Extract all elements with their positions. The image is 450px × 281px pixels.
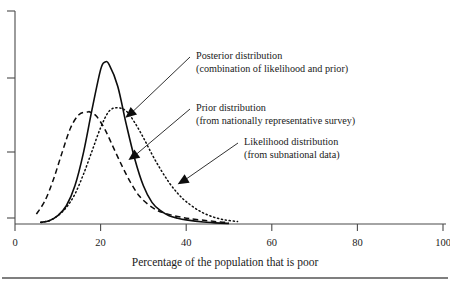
annotation-subtitle: (combination of likelihood and prior) — [196, 63, 348, 75]
annotation-subtitle: (from subnational data) — [244, 149, 340, 161]
annotation-title: Prior distribution — [196, 102, 266, 113]
x-axis-tick-label: 0 — [12, 237, 17, 248]
annotation-leader-line — [185, 143, 238, 180]
annotation-title: Likelihood distribution — [244, 136, 338, 147]
curve-prior — [36, 112, 229, 223]
x-axis-ticks — [15, 224, 443, 231]
x-axis-tick-label: 100 — [435, 237, 450, 248]
annotation-leader-line — [132, 57, 190, 112]
annotation-leader-line — [136, 109, 190, 155]
distribution-chart: 020406080100 Posterior distribution(comb… — [0, 0, 450, 281]
x-axis-tick-label: 80 — [352, 237, 363, 248]
annotation-group: Posterior distribution(combination of li… — [122, 50, 355, 188]
annotation-arrowhead-icon — [175, 174, 190, 188]
x-axis-tick-label: 40 — [181, 237, 192, 248]
x-axis-group: 020406080100 — [12, 224, 450, 248]
y-axis-group — [7, 11, 15, 224]
curve-group — [36, 62, 237, 224]
figure-container: 020406080100 Posterior distribution(comb… — [0, 0, 450, 281]
annotation-title: Posterior distribution — [196, 50, 282, 61]
x-axis-title: Percentage of the population that is poo… — [132, 256, 319, 269]
x-axis-tick-label: 20 — [95, 237, 106, 248]
x-axis-tick-labels: 020406080100 — [12, 237, 450, 248]
annotation-subtitle: (from nationally representative survey) — [196, 115, 355, 127]
curve-posterior — [41, 62, 229, 224]
x-axis-tick-label: 60 — [267, 237, 278, 248]
